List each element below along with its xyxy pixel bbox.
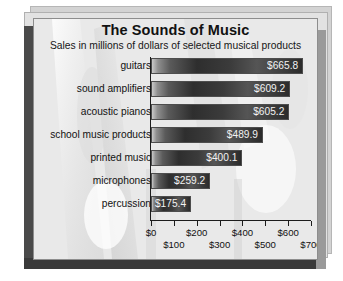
- axis-tick-label: $400: [232, 227, 253, 238]
- category-label: microphones: [33, 175, 151, 186]
- axis-tick: [197, 221, 198, 226]
- axis-tick-label: $700: [300, 239, 318, 250]
- chart-figure: The Sounds of Music Sales in millions of…: [0, 0, 343, 281]
- chart-title: The Sounds of Music: [34, 22, 317, 38]
- bar-value-label: $665.8: [267, 60, 298, 71]
- axis-tick: [265, 221, 266, 226]
- bar-row: school music products$489.9: [34, 126, 317, 149]
- bar: $400.1: [151, 150, 242, 166]
- category-label: school music products: [33, 129, 151, 140]
- axis-tick-label: $600: [277, 227, 298, 238]
- bar-value-label: $175.4: [155, 198, 186, 209]
- bar: $665.8: [151, 58, 303, 74]
- axis-tick-label: $300: [209, 239, 230, 250]
- bar-value-label: $400.1: [206, 152, 237, 163]
- bar-row: acoustic pianos$605.2: [34, 103, 317, 126]
- bar: $259.2: [151, 173, 210, 189]
- bar: $609.2: [151, 81, 290, 97]
- axis-tick: [242, 221, 243, 226]
- x-axis-line: [151, 220, 311, 221]
- card-left-shadow: [24, 26, 33, 262]
- axis-tick-label: $0: [146, 227, 157, 238]
- axis-tick: [288, 221, 289, 226]
- axis-tick: [174, 221, 175, 226]
- axis-tick: [151, 221, 152, 226]
- axis-tick-label: $100: [163, 239, 184, 250]
- plot-area: guitars$665.8sound amplifiers$609.2acous…: [34, 57, 317, 259]
- axis-tick: [311, 221, 312, 226]
- bar-row: microphones$259.2: [34, 172, 317, 195]
- category-label: sound amplifiers: [33, 83, 151, 94]
- bar-row: sound amplifiers$609.2: [34, 80, 317, 103]
- axis-tick-label: $500: [255, 239, 276, 250]
- bar-row: percussion$175.4: [34, 195, 317, 218]
- chart-subtitle: Sales in millions of dollars of selected…: [34, 40, 317, 51]
- bar-rows: guitars$665.8sound amplifiers$609.2acous…: [34, 57, 317, 218]
- category-label: acoustic pianos: [33, 106, 151, 117]
- axis-tick: [220, 221, 221, 226]
- bar-row: guitars$665.8: [34, 57, 317, 80]
- bar-value-label: $259.2: [174, 175, 205, 186]
- bar: $605.2: [151, 104, 289, 120]
- bar-value-label: $489.9: [227, 129, 258, 140]
- category-label: percussion: [33, 198, 151, 209]
- bar-value-label: $605.2: [253, 106, 284, 117]
- axis-tick-label: $200: [186, 227, 207, 238]
- chart-card: The Sounds of Music Sales in millions of…: [33, 18, 318, 260]
- category-label: guitars: [33, 60, 151, 71]
- category-label: printed music: [33, 152, 151, 163]
- bar: $489.9: [151, 127, 263, 143]
- bar-row: printed music$400.1: [34, 149, 317, 172]
- bar-value-label: $609.2: [254, 83, 285, 94]
- bar: $175.4: [151, 196, 191, 212]
